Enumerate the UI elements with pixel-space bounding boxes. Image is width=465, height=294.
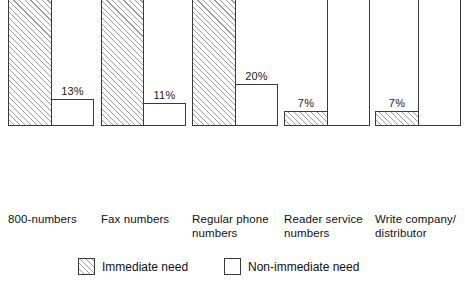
bar-immediate-write-company-distributor: 7% (375, 111, 419, 126)
bar-value-label: 20% (236, 70, 277, 85)
category-label-line: Reader service (284, 213, 363, 227)
bar-immediate-fax-numbers: 64% (101, 0, 144, 126)
plot-area: 86% 13% 64% 11% 78% 20% (0, 0, 465, 215)
legend-label: Immediate need (102, 260, 188, 274)
bar-group-800-numbers: 86% 13% (8, 0, 94, 126)
bar-group-reader-service-numbers: 7% 83% (284, 0, 370, 126)
category-label-regular-phone-numbers: Regular phone numbers (192, 213, 269, 240)
category-label-fax-numbers: Fax numbers (101, 213, 169, 227)
bar-nonimmediate-800-numbers: 13% (51, 99, 94, 126)
legend-item-immediate-need: Immediate need (78, 258, 188, 275)
category-label-write-company-distributor: Write company/ distributor (375, 213, 456, 240)
category-label-reader-service-numbers: Reader service numbers (284, 213, 363, 240)
bar-value-label: 11% (144, 89, 185, 104)
category-label-line: numbers (284, 227, 363, 241)
chart-legend: Immediate need Non-immediate need (0, 258, 465, 288)
legend-swatch-hatched-icon (78, 258, 95, 275)
bar-nonimmediate-write-company-distributor: 76% (418, 0, 461, 126)
bar-immediate-reader-service-numbers: 7% (284, 111, 328, 126)
legend-label: Non-immediate need (248, 260, 359, 274)
category-label-line: distributor (375, 227, 456, 241)
bar-group-fax-numbers: 64% 11% (101, 0, 186, 126)
bar-chart: 86% 13% 64% 11% 78% 20% (0, 0, 465, 294)
bar-value-label: 7% (285, 97, 327, 112)
category-label-line: numbers (192, 227, 269, 241)
bar-value-label: 13% (52, 85, 93, 100)
category-label-line: Regular phone (192, 213, 269, 227)
bar-group-write-company-distributor: 7% 76% (375, 0, 461, 126)
legend-swatch-plain-icon (224, 258, 241, 275)
bar-immediate-800-numbers: 86% (8, 0, 52, 126)
category-label-line: Fax numbers (101, 213, 169, 227)
bar-value-label: 7% (376, 97, 418, 112)
category-label-line: 800-numbers (8, 213, 77, 227)
category-label-line: Write company/ (375, 213, 456, 227)
bar-nonimmediate-fax-numbers: 11% (143, 103, 186, 126)
legend-item-non-immediate-need: Non-immediate need (224, 258, 359, 275)
bar-immediate-regular-phone-numbers: 78% (192, 0, 236, 126)
bar-nonimmediate-reader-service-numbers: 83% (327, 0, 370, 126)
bar-group-regular-phone-numbers: 78% 20% (192, 0, 278, 126)
category-label-800-numbers: 800-numbers (8, 213, 77, 227)
bar-nonimmediate-regular-phone-numbers: 20% (235, 84, 278, 126)
